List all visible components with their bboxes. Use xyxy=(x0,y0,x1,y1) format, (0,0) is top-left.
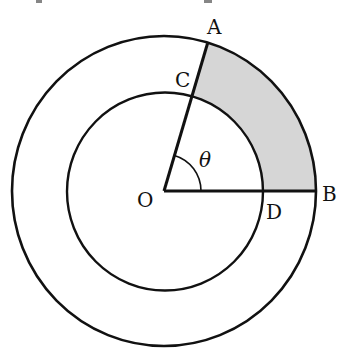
label-B: B xyxy=(322,182,337,206)
label-D: D xyxy=(266,200,282,224)
label-A: A xyxy=(206,15,222,39)
angle-arc xyxy=(175,156,202,192)
label-O: O xyxy=(137,188,153,212)
label-theta: θ xyxy=(199,148,211,172)
geometry-diagram: A C O D B θ xyxy=(0,0,347,351)
label-C: C xyxy=(175,68,190,92)
